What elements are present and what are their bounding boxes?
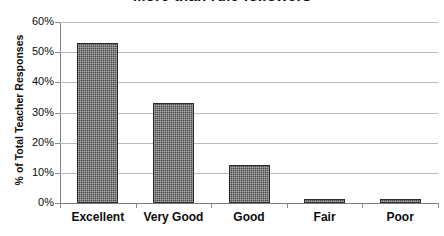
x-axis-tick-label: Good: [211, 210, 287, 224]
bar-chart: More than rule followers % of Total Teac…: [0, 0, 444, 236]
x-axis-tick-mark: [211, 203, 212, 208]
y-axis-tick-label: 20%: [8, 137, 54, 148]
y-axis-tick-label: 40%: [8, 76, 54, 87]
bar: [229, 165, 270, 203]
x-axis-tick-mark: [438, 203, 439, 208]
y-axis-tick-mark: [55, 22, 60, 23]
y-axis-tick-label: 50%: [8, 46, 54, 57]
y-axis-tick-mark: [55, 173, 60, 174]
chart-title: More than rule followers: [0, 0, 444, 4]
x-axis-tick-label: Excellent: [60, 210, 136, 224]
x-axis-tick-mark: [362, 203, 363, 208]
x-axis-tick-marks: [60, 203, 439, 209]
y-axis-tick-mark: [55, 143, 60, 144]
x-axis-tick-mark: [60, 203, 61, 208]
y-axis-tick-label: 60%: [8, 16, 54, 27]
y-axis-tick-mark: [55, 82, 60, 83]
x-axis-tick-label: Poor: [362, 210, 438, 224]
x-axis-tick-label: Fair: [287, 210, 363, 224]
bar: [153, 103, 194, 203]
y-axis-tick-labels: 0%10%20%30%40%50%60%: [6, 22, 54, 203]
x-axis-tick-mark: [136, 203, 137, 208]
x-axis-tick-label: Very Good: [136, 210, 212, 224]
y-axis-tick-label: 10%: [8, 167, 54, 178]
gridline: [60, 22, 438, 23]
y-axis-tick-mark: [55, 203, 60, 204]
bar: [77, 43, 118, 203]
y-axis-tick-mark: [55, 113, 60, 114]
y-axis-tick-label: 30%: [8, 107, 54, 118]
y-axis-tick-label: 0%: [8, 197, 54, 208]
x-axis-tick-mark: [287, 203, 288, 208]
y-axis-tick-mark: [55, 52, 60, 53]
x-axis-tick-labels: ExcellentVery GoodGoodFairPoor: [60, 210, 438, 230]
plot-area: [60, 22, 438, 203]
